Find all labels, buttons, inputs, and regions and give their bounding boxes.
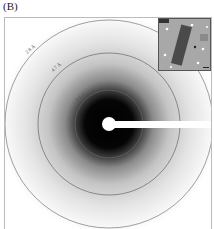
beam-stop — [102, 117, 116, 131]
beam-stop-arm — [109, 121, 212, 128]
crystal-micrograph-inset — [158, 18, 211, 71]
scale-bar — [203, 67, 209, 68]
panel-label: (B) — [3, 0, 18, 12]
diffraction-frame: 2.8 Å 4.7 Å 9.4 Å — [4, 17, 212, 229]
